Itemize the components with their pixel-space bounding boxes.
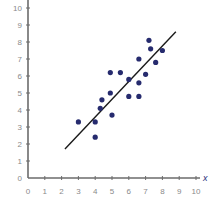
data-point <box>99 97 104 102</box>
data-point <box>153 60 158 65</box>
y-tick-label: 0 <box>18 174 23 183</box>
data-point <box>118 70 123 75</box>
x-tick-label: 6 <box>127 187 132 196</box>
trend-line <box>65 32 176 149</box>
x-tick-label: 1 <box>43 187 48 196</box>
axes <box>28 0 200 178</box>
data-point <box>93 119 98 124</box>
x-tick-label: 3 <box>76 187 81 196</box>
data-point <box>126 94 131 99</box>
data-point <box>98 106 103 111</box>
y-tick-label: 8 <box>18 38 23 47</box>
data-point <box>136 80 141 85</box>
x-axis-ticks: 012345678910 <box>26 176 201 196</box>
data-point <box>76 119 81 124</box>
data-point <box>136 56 141 61</box>
y-tick-label: 1 <box>18 157 23 166</box>
data-point <box>148 46 153 51</box>
x-tick-label: 10 <box>192 187 201 196</box>
x-tick-label: 5 <box>110 187 115 196</box>
y-tick-label: 4 <box>18 106 23 115</box>
x-tick-label: 8 <box>160 187 165 196</box>
data-point <box>146 38 151 43</box>
x-tick-label: 4 <box>93 187 98 196</box>
y-tick-label: 7 <box>18 55 23 64</box>
x-tick-label: 0 <box>26 187 31 196</box>
y-tick-label: 5 <box>18 89 23 98</box>
data-point <box>108 90 113 95</box>
y-tick-label: 10 <box>13 4 22 13</box>
scatter-chart: 012345678910 012345678910 x <box>0 0 218 201</box>
y-tick-label: 2 <box>18 140 23 149</box>
data-point <box>160 48 165 53</box>
y-tick-label: 3 <box>18 123 23 132</box>
data-point <box>143 72 148 77</box>
y-tick-label: 6 <box>18 72 23 81</box>
data-point <box>109 113 114 118</box>
data-point <box>93 135 98 140</box>
data-point <box>136 94 141 99</box>
data-point <box>108 70 113 75</box>
x-tick-label: 2 <box>59 187 64 196</box>
x-tick-label: 9 <box>177 187 182 196</box>
data-point <box>126 77 131 82</box>
best-fit-line <box>65 32 176 149</box>
x-axis-label: x <box>202 173 208 183</box>
y-tick-label: 9 <box>18 21 23 30</box>
x-tick-label: 7 <box>143 187 148 196</box>
